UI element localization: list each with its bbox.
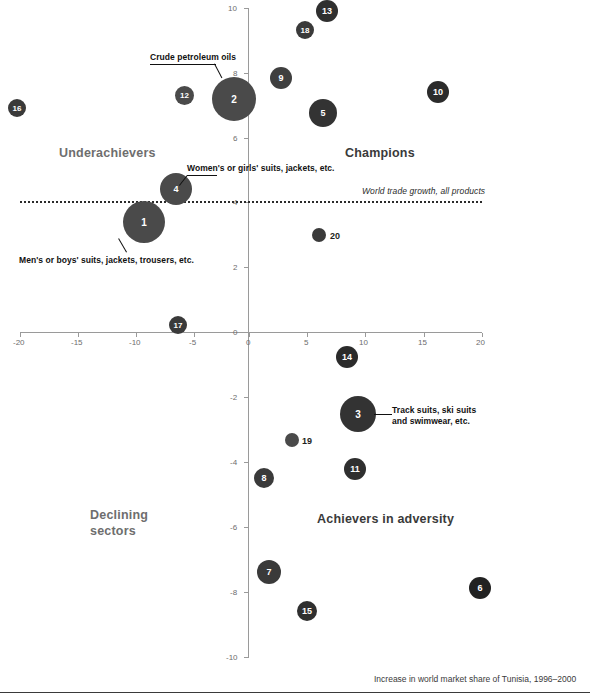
bubble-4-label: 4 — [173, 184, 178, 194]
bubble-9-label: 9 — [278, 73, 283, 83]
bubble-9[interactable]: 9 — [270, 67, 292, 89]
bubble-chart-canvas: -20 -15 -10 -5 0 5 10 15 20 10 8 6 4 2 0… — [0, 0, 590, 697]
annotation-leader-track-suits — [374, 414, 392, 415]
x-tick-label: 15 — [418, 338, 427, 347]
bubble-6-label: 6 — [477, 583, 482, 593]
bubble-1[interactable]: 1 — [123, 201, 165, 243]
x-tick-label: -15 — [71, 338, 83, 347]
y-tick-label: -6 — [230, 523, 237, 532]
bubble-17-label: 17 — [174, 321, 183, 330]
bubble-10[interactable]: 10 — [427, 81, 449, 103]
footer-divider — [0, 692, 590, 693]
bubble-1-label: 1 — [141, 217, 147, 228]
bubble-2[interactable]: 2 — [212, 77, 256, 121]
bubble-14[interactable]: 14 — [336, 346, 358, 368]
y-tick-label: 2 — [233, 263, 237, 272]
bubble-18[interactable]: 18 — [296, 21, 314, 39]
annotation-crude-petroleum-oils: Crude petroleum oils — [150, 52, 236, 63]
bubble-11-label: 11 — [350, 464, 360, 474]
x-tick-label: 5 — [304, 338, 308, 347]
annotation-leader-crude-petroleum-oils-diagonal — [214, 64, 222, 79]
annotation-womens-or-girls-suits: Women's or girls' suits, jackets, etc. — [187, 163, 335, 174]
bubble-2-label: 2 — [231, 94, 237, 105]
y-tick-label: 0 — [233, 328, 237, 337]
y-tick-label: 6 — [233, 134, 237, 143]
x-axis-line — [20, 332, 482, 333]
y-tick-label: -2 — [230, 393, 237, 402]
x-tick-label: -5 — [189, 338, 196, 347]
bubble-14-label: 14 — [342, 352, 352, 362]
quadrant-label-declining-sectors: Declining sectors — [90, 507, 148, 539]
world-trade-growth-label: World trade growth, all products — [362, 186, 485, 196]
bubble-15-label: 15 — [302, 606, 312, 616]
bubble-8[interactable]: 8 — [254, 468, 274, 488]
y-tick-label: 10 — [228, 4, 237, 13]
bubble-16[interactable]: 16 — [8, 99, 26, 117]
y-tick-label: -8 — [230, 588, 237, 597]
y-tick-label: -10 — [226, 653, 238, 662]
bubble-4[interactable]: 4 — [160, 173, 192, 205]
x-tick-label: 10 — [359, 338, 368, 347]
world-trade-growth-reference-line — [20, 201, 482, 203]
bubble-6[interactable]: 6 — [469, 577, 491, 599]
annotation-track-suits: Track suits, ski suits and swimwear, etc… — [392, 405, 476, 427]
bubble-20[interactable] — [312, 228, 326, 242]
quadrant-label-declining-line1: Declining — [90, 508, 148, 522]
annotation-leader-mens-suits-diagonal — [118, 238, 127, 252]
bubble-12-label: 12 — [180, 91, 189, 100]
bubble-5-label: 5 — [320, 108, 325, 118]
quadrant-label-declining-line2: sectors — [90, 524, 136, 538]
bubble-8-label: 8 — [261, 473, 266, 483]
bubble-16-label: 16 — [13, 104, 22, 113]
annotation-leader-crude-petroleum-oils — [150, 64, 216, 65]
x-tick-label: 20 — [476, 338, 485, 347]
bubble-10-label: 10 — [433, 87, 443, 97]
annotation-leader-womens-suits — [187, 175, 217, 176]
annotation-mens-or-boys-suits: Men's or boys' suits, jackets, trousers,… — [19, 255, 194, 266]
quadrant-label-achievers-in-adversity: Achievers in adversity — [317, 512, 454, 526]
x-axis-title: Increase in world market share of Tunisi… — [374, 674, 576, 684]
bubble-7-label: 7 — [266, 567, 271, 577]
annotation-track-suits-line2: and swimwear, etc. — [392, 416, 470, 426]
y-tick-label: -4 — [230, 458, 237, 467]
x-tick-label: -20 — [13, 338, 25, 347]
x-tick-label: -10 — [129, 338, 141, 347]
bubble-15[interactable]: 15 — [297, 601, 317, 621]
bubble-5[interactable]: 5 — [309, 99, 337, 127]
bubble-18-label: 18 — [301, 26, 310, 35]
bubble-19[interactable] — [285, 433, 299, 447]
bubble-12[interactable]: 12 — [175, 86, 194, 105]
bubble-3-label: 3 — [355, 409, 361, 420]
annotation-track-suits-line1: Track suits, ski suits — [392, 405, 476, 415]
bubble-3[interactable]: 3 — [340, 396, 376, 432]
bubble-13[interactable]: 13 — [316, 0, 338, 22]
bubble-11[interactable]: 11 — [344, 458, 366, 480]
quadrant-label-underachievers: Underachievers — [59, 146, 156, 160]
quadrant-label-champions: Champions — [345, 146, 415, 160]
bubble-7[interactable]: 7 — [257, 560, 281, 584]
bubble-13-label: 13 — [322, 6, 332, 16]
bubble-19-external-label: 19 — [302, 436, 312, 446]
x-tick-label: 0 — [246, 338, 250, 347]
bubble-20-external-label: 20 — [330, 231, 340, 241]
bubble-17[interactable]: 17 — [169, 316, 187, 334]
